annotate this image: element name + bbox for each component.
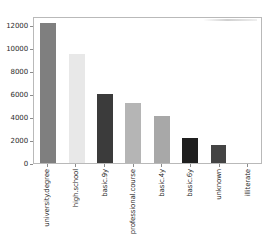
bar[interactable]	[97, 94, 113, 163]
bar[interactable]	[125, 103, 141, 163]
bar-slot	[176, 18, 204, 163]
bars-container	[34, 18, 261, 163]
x-axis-tick-mark	[247, 164, 248, 167]
y-axis-tick-label: 8000	[11, 68, 30, 76]
y-axis-tick: 4000	[11, 114, 33, 122]
x-axis-tick-mark	[133, 164, 134, 167]
bar[interactable]	[182, 138, 198, 163]
bar[interactable]	[40, 23, 56, 163]
y-axis-tick: 6000	[11, 91, 33, 99]
bar-slot	[91, 18, 119, 163]
x-axis-tick-mark	[219, 164, 220, 167]
bar-slot	[204, 18, 232, 163]
y-axis-tick: 10000	[6, 45, 33, 53]
x-axis-tick-label: professional.course	[129, 169, 137, 234]
bar-slot	[34, 18, 62, 163]
x-axis-tick-mark	[161, 164, 162, 167]
x-axis-tick-label: university.degree	[43, 169, 51, 227]
y-axis-tick: 8000	[11, 68, 33, 76]
x-axis-tick-mark	[75, 164, 76, 167]
y-axis: 020004000600080001000012000	[0, 17, 33, 164]
x-axis-tick-mark	[47, 164, 48, 167]
bar-slot	[119, 18, 147, 163]
x-axis-tick-label: unknown	[215, 169, 223, 200]
y-axis-tick: 12000	[6, 22, 33, 30]
x-axis-tick-label: basic.9y	[101, 169, 109, 197]
x-axis-tick-label: basic.6y	[186, 169, 194, 197]
y-axis-tick: 0	[24, 160, 33, 168]
y-axis-tick-label: 6000	[11, 91, 30, 99]
y-axis-tick-label: 4000	[11, 114, 30, 122]
bar[interactable]	[154, 116, 170, 163]
x-axis: university.degreehigh.schoolbasic.9yprof…	[33, 164, 262, 250]
bar-slot	[233, 18, 261, 163]
bar-chart-figure: 020004000600080001000012000 university.d…	[0, 0, 271, 250]
plot-area	[33, 17, 262, 164]
x-axis-tick-label: basic.4y	[158, 169, 166, 197]
x-axis-tick-mark	[190, 164, 191, 167]
bar-slot	[148, 18, 176, 163]
bar-slot	[62, 18, 90, 163]
y-axis-tick-label: 10000	[6, 45, 30, 53]
x-axis-tick-label: high.school	[72, 169, 80, 207]
y-axis-tick-label: 2000	[11, 137, 30, 145]
y-axis-tick-label: 12000	[6, 22, 30, 30]
bar[interactable]	[211, 145, 227, 163]
y-axis-tick: 2000	[11, 137, 33, 145]
x-axis-tick-label: illiterate	[244, 169, 252, 197]
bar[interactable]	[69, 54, 85, 163]
x-axis-tick-mark	[104, 164, 105, 167]
